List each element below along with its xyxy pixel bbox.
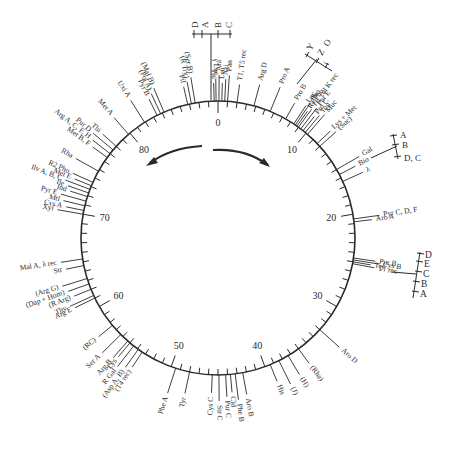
minute-label-80: 80: [139, 144, 149, 155]
minute-tick: [309, 139, 313, 143]
gene-marker: [151, 94, 160, 114]
minute-tick: [180, 364, 182, 370]
gene-marker: [279, 361, 291, 384]
gene-marker: [286, 103, 295, 119]
direction-arrows: [146, 146, 270, 167]
minute-tick: [95, 178, 100, 181]
gal-gene-a: A: [400, 130, 407, 140]
minute-tick: [347, 261, 353, 262]
minute-tick: [123, 139, 127, 143]
minute-tick: [236, 368, 237, 374]
gene-marker: [168, 368, 176, 393]
minute-tick: [110, 319, 115, 323]
gene-label: Mal A, λ rec: [19, 258, 58, 273]
minute-tick: [287, 349, 290, 354]
minute-tick: [315, 146, 319, 150]
gal-gene-dc: D, C: [404, 153, 421, 163]
minute-tick: [190, 104, 191, 110]
gene-label: (J): [289, 385, 301, 397]
minute-tick: [321, 154, 326, 158]
gene-marker: [113, 341, 127, 358]
minute-tick: [339, 287, 345, 289]
gene-marker: [66, 207, 84, 211]
gene-label: Pro A: [277, 65, 292, 85]
minute-tick: [104, 161, 109, 164]
minute-tick: [85, 205, 91, 206]
minute-tick: [271, 358, 273, 363]
minute-label-60: 60: [113, 290, 123, 301]
try-gene-c: C: [423, 269, 429, 279]
minute-label-10: 10: [287, 144, 297, 155]
minute-tick: [171, 109, 173, 115]
gene-marker: [191, 77, 195, 103]
gene-marker: [337, 157, 360, 170]
gene-marker: [118, 346, 134, 366]
minute-tick: [327, 161, 332, 164]
gene-marker: [222, 83, 223, 101]
gene-marker: [297, 111, 307, 126]
gene-marker: [114, 118, 128, 135]
gene-label: λ: [364, 164, 371, 174]
minute-tick: [343, 278, 349, 280]
try-gene-b: B: [421, 279, 427, 289]
minute-tick: [95, 295, 100, 298]
minute-tick: [345, 270, 351, 271]
minute-tick: [261, 355, 265, 366]
gene-marker: [187, 82, 191, 104]
gene-marker: [243, 373, 247, 395]
gene-label: Str C: [215, 405, 224, 421]
ara-gene-a: A: [200, 21, 210, 28]
gene-label: Phe A: [156, 395, 170, 416]
minute-tick: [348, 224, 354, 225]
gene-label: Aro A: [375, 212, 395, 223]
minute-tick: [88, 278, 94, 280]
gene-label: (H): [298, 375, 311, 389]
gene-label: Tyr: [177, 396, 188, 408]
gene-marker: [288, 356, 299, 375]
gene-marker: [299, 349, 310, 364]
gene-marker: [132, 352, 142, 367]
minute-label-50: 50: [174, 340, 184, 351]
minute-tick: [331, 170, 336, 173]
minute-tick: [271, 113, 273, 118]
gene-marker: [149, 99, 157, 115]
minute-tick: [245, 104, 246, 110]
minute-label-20: 20: [326, 212, 336, 223]
lac-gene-z: Z: [315, 47, 326, 57]
gene-marker: [270, 365, 277, 382]
gene-label: Arg D: [256, 61, 270, 82]
minute-tick: [116, 326, 120, 330]
gene-marker: [305, 115, 319, 132]
ara-gene-d: D: [190, 21, 200, 28]
lac-gene-o: O: [321, 37, 333, 48]
try-gene-e: E: [424, 259, 430, 269]
gene-marker: [66, 266, 84, 270]
ara-gene-b: B: [213, 22, 223, 28]
minute-tick: [123, 332, 127, 336]
gene-marker: [76, 158, 99, 171]
minute-tick: [199, 102, 200, 108]
minute-tick: [137, 127, 141, 132]
minute-tick: [263, 109, 265, 115]
gene-label: (RC): [81, 335, 99, 352]
gene-marker: [103, 134, 116, 146]
gene-marker: [230, 374, 232, 392]
minute-tick: [254, 106, 256, 112]
minute-tick: [341, 214, 353, 216]
gene-marker: [102, 335, 120, 353]
gene-marker: [61, 259, 83, 262]
e-coli-genetic-map: 01020304050607080 Thiγ LacAraLeuAziPanT1…: [0, 0, 449, 454]
gene-marker: [57, 210, 83, 215]
gene-marker: [68, 284, 89, 291]
minute-label-30: 30: [313, 290, 323, 301]
minute-tick: [326, 301, 336, 307]
minute-tick: [99, 301, 109, 307]
minute-tick: [85, 270, 91, 271]
gene-marker: [320, 330, 339, 347]
minute-tick: [137, 344, 141, 349]
minute-tick: [82, 224, 88, 225]
minute-tick: [199, 368, 200, 374]
minute-tick: [343, 196, 349, 198]
minute-tick: [287, 122, 290, 127]
gene-marker: [63, 201, 84, 206]
